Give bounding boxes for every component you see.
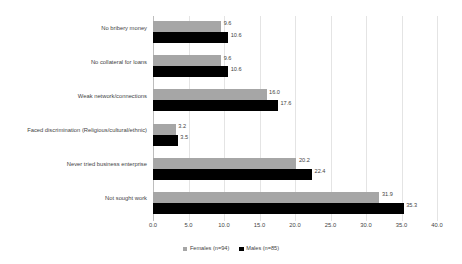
x-axis-tick-label: 0.0 [149, 223, 157, 229]
legend-item: Females (n=94) [183, 246, 229, 252]
bar-value-label: 16.0 [269, 90, 280, 96]
category-group: Faced discrimination (Religious/cultural… [153, 119, 437, 153]
bar-females [153, 192, 379, 203]
category-label-text: Weak network/connections [78, 94, 147, 100]
plot-area: No bribery money9.610.6No collateral for… [153, 16, 437, 221]
bar-value-label: 9.6 [224, 21, 232, 27]
bar-value-label: 9.6 [224, 56, 232, 62]
x-axis-tick-label: 20.0 [289, 223, 300, 229]
bar-females [153, 21, 221, 32]
category-group: No collateral for loans9.610.6 [153, 50, 437, 84]
bar-males [153, 66, 228, 77]
x-axis: 0.05.010.015.020.025.030.035.040.0 [153, 223, 437, 235]
bar-males [153, 203, 404, 214]
category-group: Weak network/connections16.017.6 [153, 84, 437, 118]
gridline [437, 16, 438, 221]
x-axis-tick-label: 25.0 [325, 223, 336, 229]
bar-value-label: 3.5 [180, 135, 188, 141]
bar-value-label: 3.2 [178, 124, 186, 130]
legend-swatch-icon [183, 247, 188, 252]
x-axis-tick-label: 10.0 [218, 223, 229, 229]
bar-chart: No bribery money9.610.6No collateral for… [0, 0, 462, 264]
bar-value-label: 20.2 [299, 158, 310, 164]
legend-label: Females (n=94) [190, 246, 229, 252]
category-label-text: Faced discrimination (Religious/cultural… [27, 128, 147, 134]
bar-value-label: 35.3 [406, 203, 417, 209]
x-axis-tick-label: 30.0 [360, 223, 371, 229]
bar-value-label: 10.6 [231, 33, 242, 39]
x-axis-tick-label: 5.0 [184, 223, 192, 229]
x-axis-tick-label: 40.0 [431, 223, 442, 229]
chart-legend: Females (n=94)Males (n=85) [0, 246, 462, 252]
legend-swatch-icon [239, 247, 244, 252]
legend-label: Males (n=85) [246, 246, 279, 252]
bar-value-label: 22.4 [315, 169, 326, 175]
category-label-text: No bribery money [101, 26, 147, 32]
bar-value-label: 17.6 [280, 101, 291, 107]
x-axis-tick-label: 15.0 [254, 223, 265, 229]
bar-females [153, 124, 176, 135]
x-axis-tick-label: 35.0 [396, 223, 407, 229]
category-group: No bribery money9.610.6 [153, 16, 437, 50]
category-label-text: Never tried business enterprise [67, 162, 147, 168]
bar-females [153, 89, 267, 100]
category-label-text: Not sought work [105, 196, 147, 202]
bar-value-label: 31.9 [382, 192, 393, 198]
bar-males [153, 100, 278, 111]
bar-males [153, 169, 312, 180]
bar-males [153, 32, 228, 43]
bar-females [153, 55, 221, 66]
category-label-text: No collateral for loans [91, 60, 147, 66]
bar-males [153, 135, 178, 146]
category-group: Never tried business enterprise20.222.4 [153, 153, 437, 187]
legend-item: Males (n=85) [239, 246, 279, 252]
category-group: Not sought work31.935.3 [153, 187, 437, 221]
bar-value-label: 10.6 [231, 67, 242, 73]
bar-females [153, 158, 296, 169]
